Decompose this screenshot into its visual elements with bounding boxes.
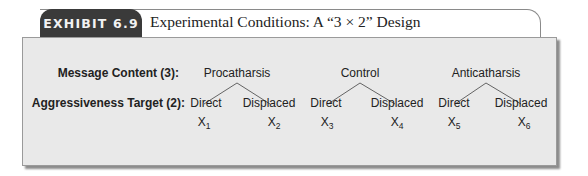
node-displaced-3: Displaced <box>495 96 548 110</box>
exhibit-tab: EXHIBIT 6.9 <box>40 9 142 38</box>
cell-x3: X3 <box>321 115 334 131</box>
node-displaced-2: Displaced <box>371 96 424 110</box>
cell-x5: X5 <box>448 115 461 131</box>
node-direct-3: Direct <box>438 96 469 110</box>
factor1-label: Message Content (3): <box>58 66 179 80</box>
factor2-label: Aggressiveness Target (2): <box>32 96 185 110</box>
cell-x2: X2 <box>268 115 281 131</box>
node-direct-1: Direct <box>190 96 221 110</box>
cell-x1: X1 <box>198 115 211 131</box>
cell-x6: X6 <box>518 115 531 131</box>
node-control: Control <box>341 66 380 80</box>
node-procatharsis: Procatharsis <box>204 66 271 80</box>
node-direct-2: Direct <box>310 96 341 110</box>
exhibit-title: Experimental Conditions: A “3 × 2” Desig… <box>150 13 421 31</box>
cell-x4: X4 <box>391 115 404 131</box>
node-anticatharsis: Anticatharsis <box>452 66 521 80</box>
node-displaced-1: Displaced <box>243 96 296 110</box>
